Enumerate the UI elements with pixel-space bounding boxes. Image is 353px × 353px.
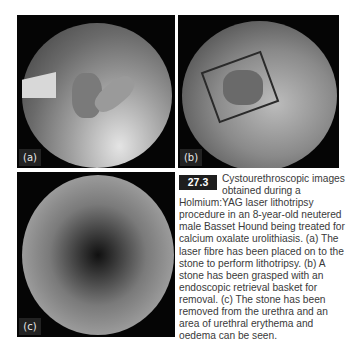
figure-panel-b: (b) (178, 15, 339, 168)
figure-panel-c: (c) (17, 172, 175, 337)
endoscopic-image-c (22, 175, 174, 335)
caption-text: Cystourethroscopic images obtained durin… (179, 173, 345, 341)
panel-label-b: (b) (180, 149, 202, 166)
panel-label-a: (a) (19, 149, 41, 166)
figure-number-badge: 27.3 (179, 175, 217, 190)
panel-label-c: (c) (19, 318, 41, 335)
figure-panel-a: (a) (17, 15, 175, 168)
stone (223, 70, 263, 105)
figure-caption: 27.3 Cystourethroscopic images obtained … (179, 173, 351, 342)
